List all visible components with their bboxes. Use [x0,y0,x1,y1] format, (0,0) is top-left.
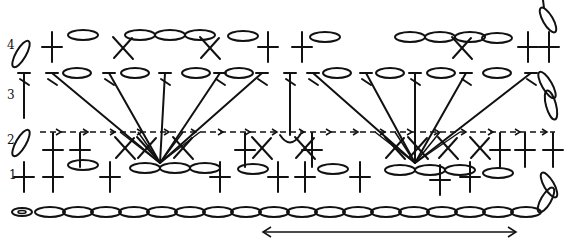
arrow-head-icon [326,129,331,135]
turning-chain-icon [9,128,33,159]
turning-chain-icon [538,170,561,199]
chain-stitch-icon [482,33,512,43]
chain-stitch-icon [125,30,155,40]
chain-stitch-icon [483,207,513,217]
chain-stitch-icon [376,68,404,78]
double-crochet-icon [42,32,62,62]
turning-chain-icon [542,89,559,121]
fan-stitch-line [109,73,160,163]
chain-stitch-icon [182,68,210,78]
chain-stitch-icon [511,207,541,217]
turning-chain-icon [9,39,33,70]
chain-stitch-icon [385,165,415,175]
chain-stitch-icon [315,207,345,217]
arrow-head-icon [407,129,412,135]
chain-stitch-icon [225,68,253,78]
chain-stitch-icon [318,164,348,174]
chain-stitch-icon [427,68,455,78]
chain-stitch-icon [63,68,91,78]
chain-stitch-icon [35,207,65,217]
chain-stitch-icon [68,160,98,170]
double-crochet-icon [539,32,559,62]
chain-stitch-icon [160,163,190,173]
crossed-stitch-icon [470,137,490,159]
chain-stitch-icon [238,164,268,174]
chain-stitch-icon [395,32,425,42]
chain-stitch-icon [185,30,215,40]
crossed-stitch-icon [113,37,133,59]
arrow-head-icon [56,129,61,135]
treble-top-icon [256,73,268,85]
repeat-arrow-icon [263,227,516,237]
chain-stitch-icon [310,32,340,42]
slip-knot-icon [12,208,32,216]
fan-stitch-line [366,73,415,163]
chain-stitch-icon [287,207,317,217]
double-crochet-icon [515,133,535,167]
chain-stitch-icon [175,207,205,217]
chain-stitch-icon [399,207,429,217]
chain-stitch-icon [231,207,261,217]
chain-stitch-icon [119,207,149,217]
double-crochet-icon [268,162,288,192]
double-crochet-icon [490,133,510,167]
chain-stitch-icon [130,163,160,173]
crossed-stitch-icon [252,137,272,159]
double-crochet-icon [430,165,450,195]
chain-stitch-icon [483,68,511,78]
chain-stitch-icon [121,68,149,78]
chain-stitch-icon [91,207,121,217]
chain-stitch-icon [259,207,289,217]
chain-stitch-icon [455,207,485,217]
double-crochet-icon [518,32,538,62]
chain-stitch-icon [425,32,455,42]
double-crochet-icon [350,162,370,192]
chain-stitch-icon [68,30,98,40]
turning-chain-icon [535,70,559,101]
chain-stitch-icon [228,31,258,41]
double-crochet-icon [43,133,63,167]
double-crochet-icon [100,162,120,192]
fan-stitch-line [415,73,466,163]
foundation-chain [12,207,541,217]
treble-top-icon [46,73,58,85]
chain-stitch-icon [427,207,457,217]
double-crochet-icon [543,133,563,167]
double-crochet-icon [14,162,34,192]
chain-stitch-icon [343,207,373,217]
chain-stitch-icon [190,163,220,173]
chain-stitch-icon [63,207,93,217]
fan-stitch-line [313,73,415,163]
row-4-stitches [9,0,559,69]
fan-stitch-line [415,73,531,163]
hook-loop-icon [280,135,300,143]
chain-stitch-icon [371,207,401,217]
turning-chain-icon [537,5,560,34]
chain-stitch-icon [483,168,513,178]
row-1-stitches [14,160,560,215]
chain-stitch-icon [203,207,233,217]
chain-stitch-icon [323,68,351,78]
chain-stitch-icon [155,30,185,40]
treble-top-icon [525,73,537,85]
double-crochet-icon [258,32,278,62]
double-crochet-icon [292,32,312,62]
fan-stitch-line [160,73,165,163]
treble-top-icon [307,73,319,85]
stitch-chart-canvas [0,0,568,244]
chain-stitch-icon [147,207,177,217]
